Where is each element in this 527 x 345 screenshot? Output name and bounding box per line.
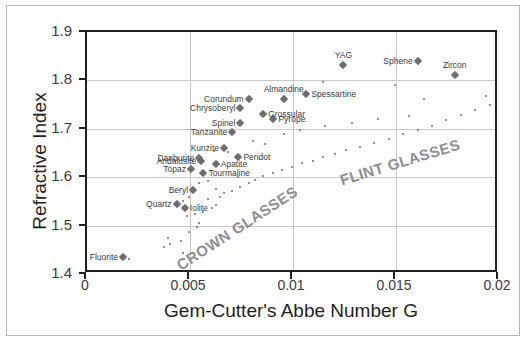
data-point-dot — [359, 146, 361, 148]
data-point-marker — [236, 103, 244, 111]
data-point-dot — [207, 198, 209, 200]
y-tick-label: 1.6 — [28, 167, 72, 184]
data-point-dot — [219, 196, 221, 198]
data-point-dot — [248, 182, 250, 184]
gridline-horizontal — [87, 80, 495, 81]
y-tick-label: 1.8 — [28, 70, 72, 87]
data-point-dot — [167, 237, 169, 239]
data-point-dot — [312, 160, 314, 162]
data-point-dot — [254, 179, 256, 181]
data-point-label: Spinel — [87, 118, 235, 128]
data-point-marker — [279, 95, 287, 103]
data-point-dot — [188, 196, 190, 198]
data-point-dot — [262, 175, 264, 177]
data-point-dot — [334, 153, 336, 155]
data-point-dot — [423, 98, 425, 100]
data-point-label: Quartz — [87, 199, 172, 209]
data-point-label: Spessartine — [311, 89, 356, 99]
data-point-label: Peridot — [243, 152, 270, 162]
x-tick-label: 0.005 — [153, 277, 223, 293]
data-point-dot — [223, 192, 225, 194]
data-point-dot — [227, 151, 229, 153]
data-point-dot — [489, 104, 491, 106]
data-point-dot — [211, 207, 213, 209]
data-point-dot — [322, 156, 324, 158]
gridline-horizontal — [87, 226, 495, 227]
data-point-dot — [373, 142, 375, 144]
x-tick-label: 0.02 — [462, 277, 527, 293]
data-point-dot — [301, 162, 303, 164]
data-point-dot — [408, 115, 410, 117]
gridline-vertical — [293, 32, 294, 270]
data-point-label: Kunzite — [87, 143, 219, 153]
data-point-label: Chrysoberyl — [87, 103, 235, 113]
data-point-dot — [460, 114, 462, 116]
data-point-dot — [485, 95, 487, 97]
data-point-dot — [324, 125, 326, 127]
data-point-dot — [215, 188, 217, 190]
data-point-label: Tourmaline — [208, 168, 250, 178]
x-tick-label: 0 — [50, 277, 120, 293]
data-point-marker — [259, 110, 267, 118]
data-point-dot — [474, 109, 476, 111]
data-point-dot — [239, 186, 241, 188]
data-point-dot — [163, 246, 165, 248]
data-point-dot — [322, 81, 324, 83]
data-point-label: Tanzanite — [87, 127, 227, 137]
data-point-marker — [450, 71, 458, 79]
data-point-label: Beryl — [87, 185, 188, 195]
plot-area: FluoriteQuartzIoliteBerylTopazAndalusite… — [85, 30, 497, 272]
data-point-dot — [445, 119, 447, 121]
data-point-label: Danburite — [87, 153, 194, 163]
x-tick-label: 0.015 — [359, 277, 429, 293]
data-point-label: Corundum — [87, 94, 244, 104]
figure-root: Refractive Index Gem-Cutter's Abbe Numbe… — [0, 0, 527, 345]
data-point-marker — [172, 199, 180, 207]
data-point-dot — [231, 190, 233, 192]
data-point-dot — [207, 180, 209, 182]
gridline-vertical — [396, 32, 397, 270]
data-point-dot — [388, 138, 390, 140]
data-point-dot — [180, 240, 182, 242]
data-point-marker — [181, 204, 189, 212]
data-point-label: Zircon — [415, 60, 495, 70]
data-point-label: Iolite — [190, 203, 208, 213]
data-point-dot — [417, 129, 419, 131]
region-annotation: FLINT GLASSES — [338, 135, 462, 188]
data-point-label: Pyrope — [278, 114, 305, 124]
y-tick-label: 1.7 — [28, 118, 72, 135]
x-axis-title: Gem-Cutter's Abbe Number G — [85, 300, 497, 322]
data-point-dot — [215, 204, 217, 206]
data-point-dot — [196, 226, 198, 228]
data-point-dot — [291, 166, 293, 168]
data-point-dot — [188, 231, 190, 233]
data-point-label: Fluorite — [87, 252, 118, 262]
data-point-marker — [236, 119, 244, 127]
data-point-dot — [128, 258, 130, 260]
data-point-dot — [198, 182, 200, 184]
data-point-dot — [377, 118, 379, 120]
data-point-dot — [351, 122, 353, 124]
data-point-dot — [194, 213, 196, 215]
data-point-label: Sphene — [87, 56, 413, 66]
region-annotation: CROWN GLASSES — [174, 183, 301, 272]
data-point-marker — [119, 253, 127, 261]
data-point-marker — [244, 94, 252, 102]
data-point-dot — [272, 172, 274, 174]
y-tick-label: 1.5 — [28, 215, 72, 232]
gridline-horizontal — [87, 177, 495, 178]
x-tick-label: 0.01 — [256, 277, 326, 293]
data-point-dot — [264, 143, 266, 145]
data-point-dot — [186, 215, 188, 217]
data-point-dot — [198, 222, 200, 224]
y-tick-label: 1.9 — [28, 22, 72, 39]
data-point-dot — [345, 149, 347, 151]
data-point-dot — [394, 84, 396, 86]
data-point-dot — [299, 129, 301, 131]
data-point-dot — [283, 133, 285, 135]
data-point-dot — [281, 169, 283, 171]
data-point-dot — [182, 200, 184, 202]
data-point-dot — [252, 140, 254, 142]
data-point-dot — [431, 125, 433, 127]
data-point-dot — [169, 243, 171, 245]
